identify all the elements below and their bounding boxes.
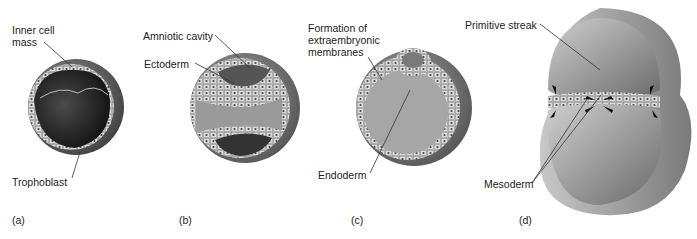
amniotic-stage-illustration bbox=[190, 53, 300, 163]
embryo-development-figure: Inner cell mass Trophoblast (a) Amniotic… bbox=[0, 0, 697, 239]
label-mesoderm: Mesoderm bbox=[484, 178, 534, 190]
label-amniotic-cavity: Amniotic cavity bbox=[143, 30, 213, 42]
label-line: extraembryonic bbox=[308, 34, 380, 46]
blastocyst-illustration bbox=[28, 59, 124, 155]
label-ectoderm: Ectoderm bbox=[144, 58, 189, 70]
panel-label-c: (c) bbox=[351, 214, 363, 226]
label-line: membranes bbox=[308, 46, 380, 58]
label-formation-extraembryonic-membranes: Formation of extraembryonic membranes bbox=[308, 22, 380, 58]
label-line: mass bbox=[12, 36, 55, 48]
primitive-streak-illustration bbox=[540, 8, 692, 215]
label-inner-cell-mass: Inner cell mass bbox=[12, 24, 55, 48]
label-line: Formation of bbox=[308, 22, 380, 34]
panel-label-d: (d) bbox=[519, 214, 532, 226]
panel-label-a: (a) bbox=[12, 214, 25, 226]
label-trophoblast: Trophoblast bbox=[12, 176, 67, 188]
label-endoderm: Endoderm bbox=[318, 169, 366, 181]
label-line: Inner cell bbox=[12, 24, 55, 36]
label-primitive-streak: Primitive streak bbox=[465, 19, 537, 31]
panel-label-b: (b) bbox=[179, 214, 192, 226]
